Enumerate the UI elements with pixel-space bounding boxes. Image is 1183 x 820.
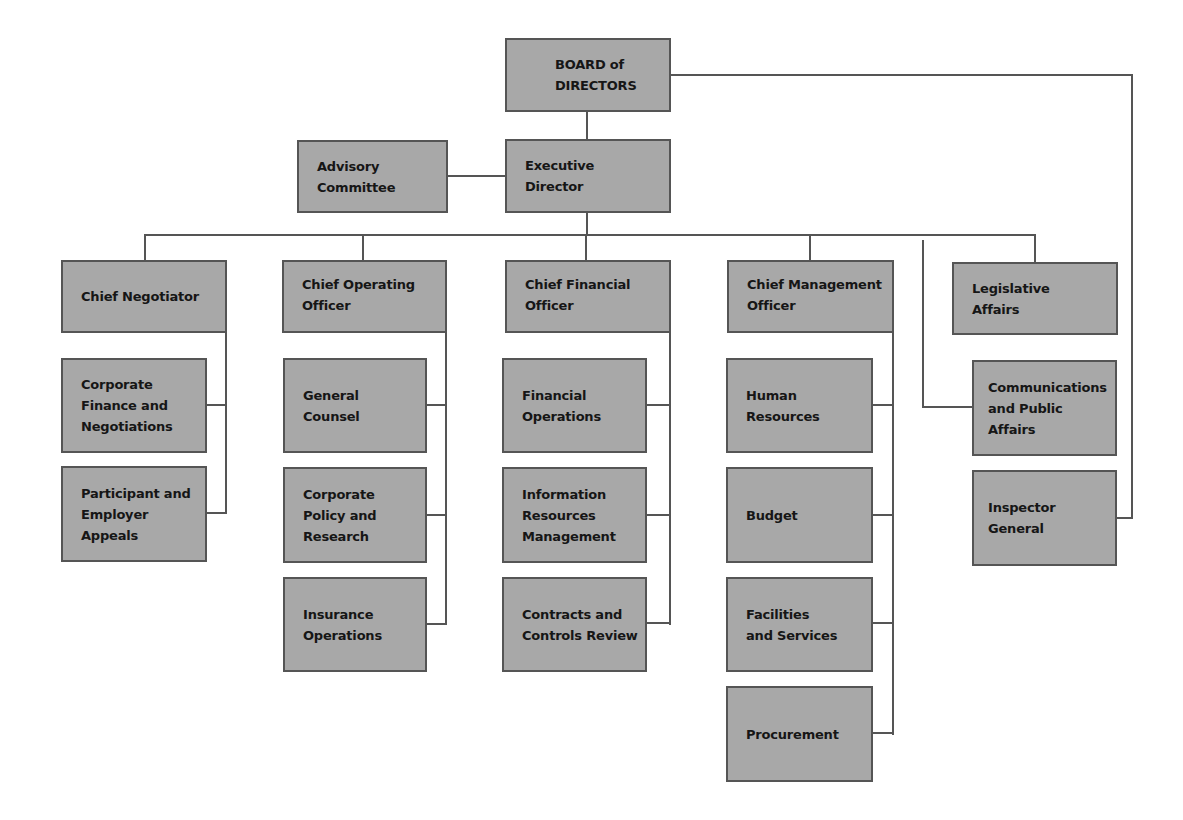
connector-cfo-sub2 bbox=[646, 514, 670, 516]
connector-coo-sub2 bbox=[426, 514, 446, 516]
node-financial-operations: Financial Operations bbox=[502, 358, 647, 453]
connector-coo-sub3 bbox=[426, 623, 446, 625]
node-inspector-general: Inspector General bbox=[972, 470, 1117, 566]
connector-cfo-sub1 bbox=[646, 404, 670, 406]
node-corporate-finance-negotiations: Corporate Finance and Negotiations bbox=[61, 358, 207, 453]
connector-bus-coo bbox=[362, 234, 364, 260]
connector-bus-negotiator bbox=[144, 234, 146, 260]
connector-board-exec bbox=[586, 111, 588, 139]
connector-cmo-sub1 bbox=[872, 404, 893, 406]
node-chief-financial-officer: Chief Financial Officer bbox=[505, 260, 671, 333]
connector-cmo-sub4 bbox=[872, 732, 893, 734]
connector-cfo-spine bbox=[669, 332, 671, 625]
connector-board-inspector-vertical bbox=[1131, 74, 1133, 519]
connector-communications-stub bbox=[922, 406, 972, 408]
connector-coo-sub1 bbox=[426, 404, 446, 406]
node-communications-public-affairs: Communications and Public Affairs bbox=[972, 360, 1117, 456]
node-board-of-directors: BOARD of DIRECTORS bbox=[505, 38, 671, 112]
connector-cmo-sub3 bbox=[872, 622, 893, 624]
connector-bus-cfo bbox=[585, 234, 587, 260]
node-facilities-services: Facilities and Services bbox=[726, 577, 873, 672]
node-chief-operating-officer: Chief Operating Officer bbox=[282, 260, 447, 333]
node-contracts-controls-review: Contracts and Controls Review bbox=[502, 577, 647, 672]
node-chief-negotiator: Chief Negotiator bbox=[61, 260, 227, 333]
node-chief-management-officer: Chief Management Officer bbox=[727, 260, 894, 333]
connector-bus-communications bbox=[922, 240, 924, 408]
node-advisory-committee: Advisory Committee bbox=[297, 140, 448, 213]
node-human-resources: Human Resources bbox=[726, 358, 873, 453]
connector-cfo-sub3 bbox=[646, 622, 670, 624]
connector-bus-legislative bbox=[1034, 234, 1036, 262]
node-procurement: Procurement bbox=[726, 686, 873, 782]
connector-negotiator-spine bbox=[225, 332, 227, 514]
node-insurance-operations: Insurance Operations bbox=[283, 577, 427, 672]
node-corporate-policy-research: Corporate Policy and Research bbox=[283, 467, 427, 563]
connector-inspector-stub bbox=[1116, 517, 1133, 519]
connector-advisory-exec bbox=[447, 175, 505, 177]
node-legislative-affairs: Legislative Affairs bbox=[952, 262, 1118, 335]
connector-bus-cmo bbox=[809, 234, 811, 260]
node-information-resources-management: Information Resources Management bbox=[502, 467, 647, 563]
connector-cmo-spine bbox=[892, 332, 894, 735]
connector-main-bus bbox=[144, 234, 1036, 236]
connector-cmo-sub2 bbox=[872, 514, 893, 516]
connector-negotiator-sub2 bbox=[206, 512, 226, 514]
node-executive-director: Executive Director bbox=[505, 139, 671, 213]
node-general-counsel: General Counsel bbox=[283, 358, 427, 453]
connector-coo-spine bbox=[445, 332, 447, 625]
connector-board-inspector bbox=[670, 74, 1133, 76]
node-budget: Budget bbox=[726, 467, 873, 563]
connector-exec-bus bbox=[586, 212, 588, 236]
connector-negotiator-sub1 bbox=[206, 404, 226, 406]
node-participant-employer-appeals: Participant and Employer Appeals bbox=[61, 466, 207, 562]
